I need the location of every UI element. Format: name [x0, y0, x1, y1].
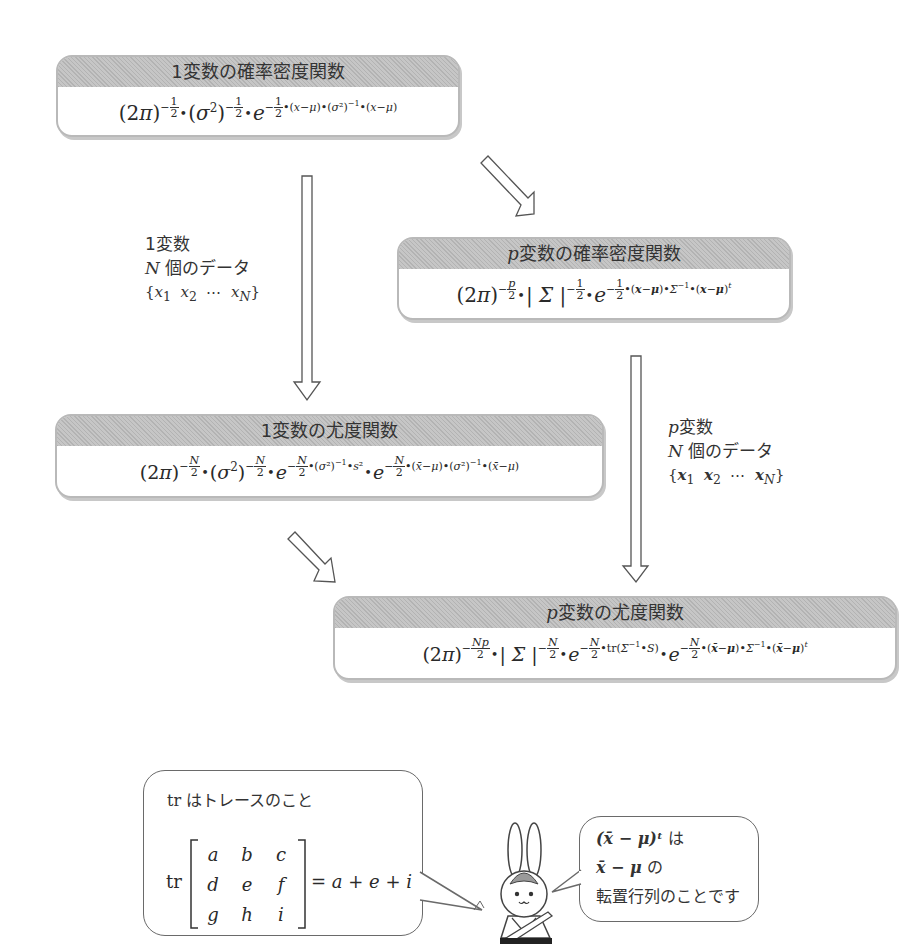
box-title: p変数の確率密度関数 — [399, 239, 789, 269]
arrow-diag-top — [481, 156, 534, 216]
note-line-2: N 個のデータ — [145, 256, 260, 280]
matrix-cells: abc def ghi — [196, 840, 306, 930]
multivariate-likelihood-box: p変数の尤度関数 (2π)−Np2•| Σ |−N2•e−N2•tr(Σ−1•S… — [333, 596, 897, 680]
multivariate-pdf-box: p変数の確率密度関数 (2π)−p2•| Σ |−12•e−12•(x−μ)•Σ… — [397, 237, 791, 320]
box-title: 1変数の確率密度関数 — [58, 57, 458, 87]
transpose-text: (x̄ − μ)ᵗ は x̄ − μ の 転置行列のことです — [596, 824, 740, 911]
formula: (2π)−12•(σ2)−12•e−12•(x−μ)•(σ²)−1•(x−μ) — [58, 87, 458, 125]
multivariate-data-note: p変数 N 個のデータ {x1 x2 ⋯ xN} — [668, 415, 784, 492]
arrow-down-right — [623, 356, 648, 582]
note-line-3: {x1 x2 ⋯ xN} — [668, 463, 784, 492]
transpose-line-1: (x̄ − μ)ᵗ は — [596, 824, 740, 853]
formula: (2π)−Np2•| Σ |−N2•e−N2•tr(Σ−1•S)•e−N2•(x… — [335, 628, 895, 665]
note-line-2: N 個のデータ — [668, 439, 784, 463]
note-line-3: {x1 x2 ⋯ xN} — [145, 280, 260, 309]
arrow-diag-bottom — [288, 532, 335, 582]
transpose-line-2: x̄ − μ の — [596, 853, 740, 882]
trace-op: tr — [166, 871, 182, 892]
trace-title: tr はトレースのこと — [167, 787, 313, 811]
formula: (2π)−N2•(σ2)−N2•e−N2•(σ²)−1•s²•e−N2•(x̄−… — [57, 446, 602, 483]
formula: (2π)−p2•| Σ |−12•e−12•(x−μ)•Σ−1•(x−μ)t — [399, 269, 789, 307]
univariate-pdf-box: 1変数の確率密度関数 (2π)−12•(σ2)−12•e−12•(x−μ)•(σ… — [56, 55, 460, 137]
arrow-down-left — [294, 176, 320, 400]
box-title: 1変数の尤度関数 — [57, 416, 602, 446]
transpose-line-3: 転置行列のことです — [596, 882, 740, 911]
note-line-1: p変数 — [668, 415, 784, 439]
sparkle-icon — [472, 898, 488, 912]
univariate-data-note: 1変数 N 個のデータ {x1 x2 ⋯ xN} — [145, 232, 260, 309]
univariate-likelihood-box: 1変数の尤度関数 (2π)−N2•(σ2)−N2•e−N2•(σ²)−1•s²•… — [55, 414, 604, 498]
trace-bubble-tail — [418, 870, 488, 920]
transpose-bubble-tail — [550, 868, 584, 898]
note-line-1: 1変数 — [145, 232, 260, 256]
trace-result: = a + e + i — [311, 871, 412, 892]
box-title: p変数の尤度関数 — [335, 598, 895, 628]
